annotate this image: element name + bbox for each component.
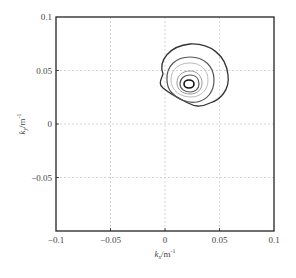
svg-text:0.1: 0.1 (41, 12, 52, 22)
x-tick-labels: −0.1 −0.05 0 0.05 0.1 (48, 235, 280, 245)
y-axis-label: ky/m-1 (16, 113, 28, 134)
contour-level-5 (180, 75, 199, 92)
y-tick-labels: 0.1 0.05 0 −0.05 (31, 12, 52, 183)
contour-chart: −0.1 −0.05 0 0.05 0.1 0.1 0.05 0 −0.05 k… (0, 0, 296, 278)
grid (56, 17, 274, 231)
svg-text:0: 0 (48, 119, 53, 129)
contour-level-6 (184, 80, 194, 88)
svg-text:−0.1: −0.1 (48, 235, 64, 245)
svg-text:−0.05: −0.05 (100, 235, 121, 245)
x-axis-label: kx/m-1 (154, 248, 175, 260)
svg-text:0.05: 0.05 (36, 66, 52, 76)
svg-text:0: 0 (163, 235, 168, 245)
svg-text:−0.05: −0.05 (31, 173, 52, 183)
svg-text:0.05: 0.05 (212, 235, 228, 245)
tick-marks (56, 71, 220, 232)
contour-lines (160, 44, 228, 106)
svg-text:0.1: 0.1 (268, 235, 279, 245)
